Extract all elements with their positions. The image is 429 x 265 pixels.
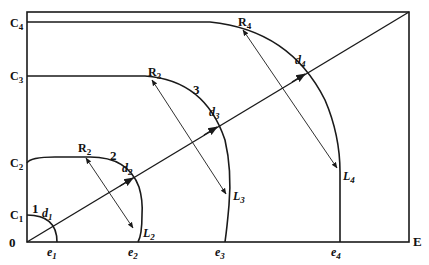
l4-label: L4 bbox=[342, 169, 355, 185]
arrow-r3-l3 bbox=[152, 80, 226, 194]
c1-label: C1 bbox=[10, 208, 24, 224]
c2-label: C2 bbox=[10, 156, 24, 172]
ray-arrow-d4 bbox=[292, 74, 305, 82]
curve-4 bbox=[27, 22, 340, 242]
diagonal-ray bbox=[27, 12, 409, 242]
curve-2-number: 2 bbox=[110, 148, 117, 163]
c4-label: C4 bbox=[10, 16, 24, 32]
d2-label: d2 bbox=[122, 161, 133, 177]
origin-label: 0 bbox=[9, 235, 16, 250]
e1-label: e1 bbox=[47, 245, 57, 261]
curve-3-number: 3 bbox=[193, 82, 200, 97]
e4-label: e4 bbox=[331, 245, 341, 261]
ray-arrow-d3 bbox=[204, 127, 217, 135]
isoquant-diagram: 0 E C1 C2 C3 C4 e1 e2 e3 e4 1 2 3 d1 d2 … bbox=[0, 0, 429, 265]
curve-3 bbox=[27, 76, 230, 242]
e-axis-label: E bbox=[413, 234, 422, 249]
r2-label: R2 bbox=[78, 141, 92, 157]
r4-label: R4 bbox=[238, 15, 252, 31]
r3-label: R3 bbox=[148, 65, 162, 81]
arrow-r4-l4 bbox=[243, 30, 337, 168]
e2-label: e2 bbox=[128, 245, 138, 261]
d1-label: d1 bbox=[42, 206, 53, 222]
e3-label: e3 bbox=[215, 245, 225, 261]
c3-label: C3 bbox=[10, 69, 24, 85]
d3-label: d3 bbox=[209, 105, 220, 121]
ray-arrow-d2 bbox=[120, 178, 133, 186]
l3-label: L3 bbox=[232, 189, 245, 205]
curve-1-number: 1 bbox=[32, 201, 39, 216]
d4-label: d4 bbox=[295, 53, 306, 69]
l2-label: L2 bbox=[142, 226, 155, 242]
